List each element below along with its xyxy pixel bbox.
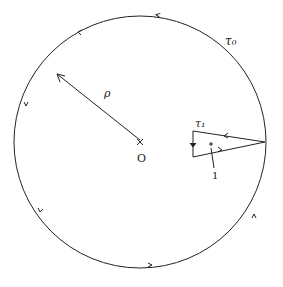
arrow-icon: [190, 143, 196, 147]
contour-diagram: τ₀ τ₁ ρ O 1: [0, 0, 283, 287]
origin-label: O: [137, 152, 146, 165]
arrow-icon: [224, 133, 228, 138]
arrow-icon: [24, 102, 28, 106]
point-cross-icon: [209, 142, 213, 146]
radius-label: ρ: [103, 87, 111, 100]
arrow-icon: [38, 208, 43, 212]
point-label: 1: [212, 170, 218, 181]
inner-triangle-contour: [193, 131, 265, 157]
point-leader-line: [211, 148, 214, 168]
arrow-icon: [78, 30, 82, 35]
arrow-icon: [252, 214, 256, 218]
radius-line: [57, 74, 140, 140]
outer-contour-label: τ₀: [225, 34, 237, 48]
arrow-icon: [148, 263, 152, 267]
inner-contour-label: τ₁: [195, 117, 206, 130]
